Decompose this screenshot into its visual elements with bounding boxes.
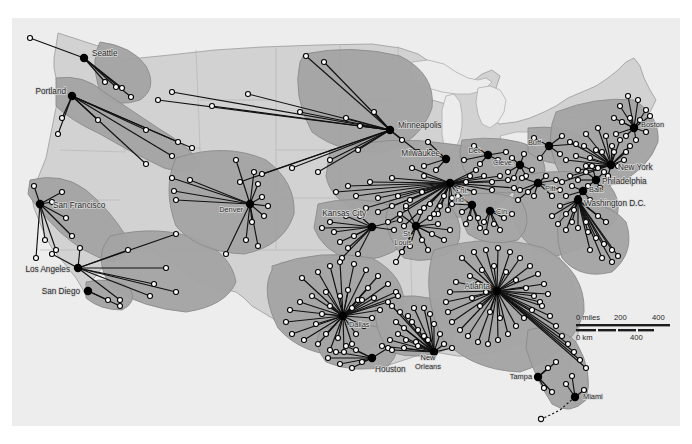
spoke-airport-dot[interactable] [334,350,339,355]
spoke-airport-dot[interactable] [600,256,605,261]
spoke-airport-dot[interactable] [416,328,421,333]
spoke-airport-dot[interactable] [554,178,559,183]
spoke-airport-dot[interactable] [458,328,463,333]
spoke-airport-dot[interactable] [338,240,343,245]
spoke-airport-dot[interactable] [496,246,501,251]
spoke-airport-dot[interactable] [542,386,547,391]
spoke-airport-dot[interactable] [346,184,351,189]
spoke-airport-dot[interactable] [114,85,119,90]
spoke-airport-dot[interactable] [548,314,553,319]
spoke-airport-dot[interactable] [250,220,255,225]
hub-airport-dot-cleve[interactable] [516,161,524,169]
spoke-airport-dot[interactable] [540,304,545,309]
spoke-airport-dot[interactable] [370,316,375,321]
spoke-airport-dot[interactable] [386,220,391,225]
hub-airport-dot-new-york[interactable] [607,161,615,169]
spoke-airport-dot[interactable] [356,252,361,257]
hub-airport-dot-atlanta[interactable] [493,287,501,295]
spoke-airport-dot[interactable] [436,222,441,227]
spoke-airport-dot[interactable] [464,180,469,185]
spoke-airport-dot[interactable] [518,256,523,261]
spoke-airport-dot[interactable] [610,248,615,253]
spoke-airport-dot[interactable] [422,206,427,211]
spoke-airport-dot[interactable] [602,170,607,175]
spoke-airport-dot[interactable] [376,196,381,201]
hub-airport-dot-det[interactable] [484,151,492,159]
spoke-airport-dot[interactable] [156,98,161,103]
spoke-airport-dot[interactable] [568,140,573,145]
spoke-airport-dot[interactable] [618,138,623,143]
spoke-airport-dot[interactable] [288,308,293,313]
spoke-airport-dot[interactable] [600,150,605,155]
spoke-airport-dot[interactable] [338,260,343,265]
spoke-airport-dot[interactable] [604,134,609,139]
spoke-airport-dot[interactable] [584,132,589,137]
spoke-airport-dot[interactable] [328,220,333,225]
spoke-airport-dot[interactable] [512,176,517,181]
hub-airport-dot-dallas[interactable] [339,312,347,320]
spoke-airport-dot[interactable] [478,162,483,167]
spoke-airport-dot[interactable] [522,316,527,321]
spoke-airport-dot[interactable] [412,306,417,311]
spoke-airport-dot[interactable] [174,290,179,295]
spoke-airport-dot[interactable] [360,298,365,303]
spoke-airport-dot[interactable] [576,226,581,231]
spoke-airport-dot[interactable] [468,274,473,279]
spoke-airport-dot[interactable] [450,320,455,325]
spoke-airport-dot[interactable] [578,358,583,363]
spoke-airport-dot[interactable] [584,170,589,175]
spoke-airport-dot[interactable] [618,104,623,109]
spoke-airport-dot[interactable] [564,382,569,387]
spoke-airport-dot[interactable] [402,224,407,229]
spoke-airport-dot[interactable] [624,150,629,155]
spoke-airport-dot[interactable] [390,304,395,309]
hub-airport-dot-boston[interactable] [630,124,638,132]
spoke-airport-dot[interactable] [54,248,59,253]
spoke-airport-dot[interactable] [486,342,491,347]
spoke-airport-dot[interactable] [554,360,559,365]
spoke-airport-dot[interactable] [550,194,555,199]
spoke-airport-dot[interactable] [316,342,321,347]
spoke-airport-dot[interactable] [498,228,503,233]
spoke-airport-dot[interactable] [490,188,495,193]
spoke-airport-dot[interactable] [368,180,373,185]
hub-airport-dot-philadelphia[interactable] [592,176,600,184]
hub-airport-dot-portland[interactable] [68,92,76,100]
spoke-airport-dot[interactable] [422,174,427,179]
spoke-airport-dot[interactable] [460,256,465,261]
spoke-airport-dot[interactable] [476,216,481,221]
spoke-airport-dot[interactable] [570,220,575,225]
spoke-airport-dot[interactable] [426,140,431,145]
spoke-airport-dot[interactable] [558,188,563,193]
hub-airport-dot-pitt[interactable] [534,179,542,187]
spoke-airport-dot[interactable] [148,294,153,299]
spoke-airport-dot[interactable] [434,168,439,173]
spoke-airport-dot[interactable] [634,138,639,143]
spoke-airport-dot[interactable] [448,228,453,233]
spoke-airport-dot[interactable] [528,264,533,269]
spoke-airport-dot[interactable] [386,300,391,305]
spoke-airport-dot[interactable] [210,104,215,109]
spoke-airport-dot[interactable] [190,146,195,151]
spoke-airport-dot[interactable] [394,260,399,265]
spoke-airport-dot[interactable] [586,230,591,235]
spoke-airport-dot[interactable] [70,234,75,239]
spoke-airport-dot[interactable] [322,60,327,65]
spoke-airport-dot[interactable] [612,150,617,155]
spoke-airport-dot[interactable] [560,180,565,185]
spoke-airport-dot[interactable] [576,168,581,173]
spoke-airport-dot[interactable] [504,150,509,155]
spoke-airport-dot[interactable] [344,116,349,121]
spoke-airport-dot[interactable] [594,148,599,153]
spoke-airport-dot[interactable] [510,212,515,217]
spoke-airport-dot[interactable] [570,374,575,379]
spoke-airport-dot[interactable] [256,244,261,249]
spoke-airport-dot[interactable] [224,252,229,257]
spoke-airport-dot[interactable] [474,168,479,173]
spoke-airport-dot[interactable] [234,158,239,163]
spoke-airport-dot[interactable] [422,334,427,339]
spoke-airport-dot[interactable] [126,248,131,253]
spoke-airport-dot[interactable] [328,348,333,353]
spoke-airport-dot[interactable] [602,242,607,247]
spoke-airport-dot[interactable] [380,344,385,349]
